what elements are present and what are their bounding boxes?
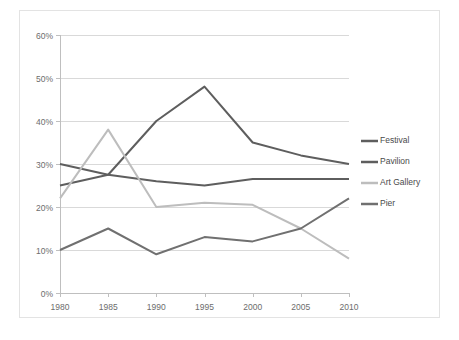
x-axis-tick-label: 2005	[291, 302, 310, 312]
legend-label-pier: Pier	[380, 198, 395, 208]
x-axis-tick-label: 1990	[147, 302, 166, 312]
x-axis-tick-label: 1980	[51, 302, 70, 312]
line-chart: 0%10%20%30%40%50%60% 1980198519901995200…	[0, 0, 459, 340]
chart-legend: FestivalPavilionArt GalleryPier	[361, 135, 421, 208]
gridlines-group	[60, 36, 349, 251]
y-axis-tick-label: 50%	[36, 74, 53, 84]
x-axis-tick-labels: 1980198519901995200020052010	[51, 302, 359, 312]
y-axis-tick-labels: 0%10%20%30%40%50%60%	[36, 31, 53, 299]
y-axis-tick-label: 40%	[36, 117, 53, 127]
legend-label-festival: Festival	[380, 135, 409, 145]
y-axis-tick-label: 60%	[36, 31, 53, 41]
y-axis-tick-label: 0%	[41, 289, 54, 299]
x-axis-tick-label: 2000	[243, 302, 262, 312]
series-line-art-gallery	[60, 130, 349, 259]
y-axis-tick-label: 20%	[36, 203, 53, 213]
chart-container: 0%10%20%30%40%50%60% 1980198519901995200…	[0, 0, 459, 340]
y-axis-tick-label: 10%	[36, 246, 53, 256]
x-axis-tick-label: 1995	[195, 302, 214, 312]
series-lines-group	[60, 87, 349, 259]
series-line-pavilion	[60, 164, 349, 186]
legend-label-art-gallery: Art Gallery	[380, 177, 421, 187]
x-axis-tick-label: 1985	[99, 302, 118, 312]
axes-group	[56, 35, 350, 297]
legend-label-pavilion: Pavilion	[380, 156, 410, 166]
x-axis-tick-label: 2010	[340, 302, 359, 312]
y-axis-tick-label: 30%	[36, 160, 53, 170]
series-line-pier	[60, 198, 349, 254]
